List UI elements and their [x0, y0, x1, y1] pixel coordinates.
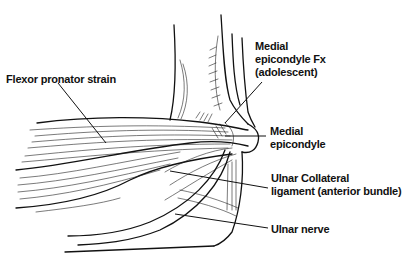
label-line: ligament (anterior bundle)	[271, 185, 401, 198]
label-flexor-pronator-strain: Flexor pronator strain	[6, 73, 116, 86]
label-line: Ulnar nerve	[271, 223, 329, 236]
label-medial-epicondyle: Medial epicondyle	[270, 125, 325, 151]
label-line: epicondyle Fx	[255, 53, 326, 66]
label-line: Medial	[255, 40, 326, 53]
elbow-anatomy-illustration	[0, 0, 419, 265]
label-line: Flexor pronator strain	[6, 73, 116, 86]
flexor-pronator-muscle	[16, 118, 248, 212]
label-medial-epicondyle-fx: Medial epicondyle Fx (adolescent)	[255, 40, 326, 79]
leader-line-medial-epicondyle-fx	[225, 82, 262, 123]
label-line: epicondyle	[270, 138, 325, 151]
ulnar-nerve	[68, 150, 230, 245]
leader-line-ulnar-collateral	[170, 171, 268, 188]
label-line: Ulnar Collateral	[271, 172, 401, 185]
label-ulnar-collateral-ligament: Ulnar Collateral ligament (anterior bund…	[271, 172, 401, 198]
label-line: (adolescent)	[255, 66, 326, 79]
leader-line-ulnar-nerve	[175, 214, 268, 228]
label-ulnar-nerve: Ulnar nerve	[271, 223, 329, 236]
label-line: Medial	[270, 125, 325, 138]
ulnar-collateral-ligament	[65, 148, 243, 252]
humerus-outline	[170, 15, 255, 127]
